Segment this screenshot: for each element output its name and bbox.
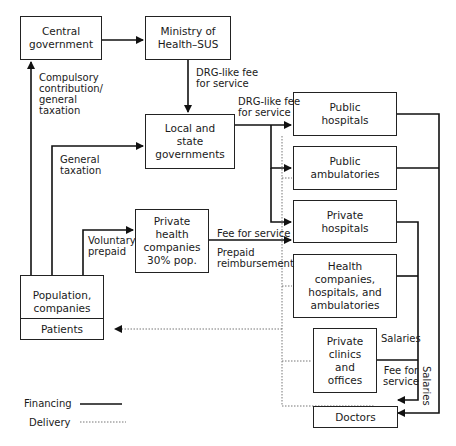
label-fee-for-service: Fee for service [217,228,290,239]
node-private-clinics: Private clinics and offices [313,328,377,393]
node-public-hospitals: Public hospitals [293,92,397,136]
legend-delivery: Delivery [29,417,71,428]
node-local-state-governments: Local and state governments [145,114,235,169]
legend-financing: Financing [24,398,72,409]
label-drg-fee-local: DRG-like fee for service [238,96,300,118]
node-private-hospitals: Private hospitals [293,200,397,243]
label-compulsory-contribution: Compulsory contribution/ general taxatio… [39,72,103,116]
node-public-ambulatories: Public ambulatories [293,146,397,190]
node-patients: Patients [20,318,104,340]
node-central-government: Central government [20,16,102,60]
label-salaries-outer: Salaries [421,366,432,406]
label-salaries-inner: Salaries [381,333,421,344]
label-drg-fee-ministry: DRG-like fee for service [196,67,258,89]
node-ministry-of-health: Ministry of Health–SUS [145,16,231,60]
node-doctors: Doctors [313,406,398,428]
node-private-health-companies: Private health companies 30% pop. [135,209,209,273]
label-general-taxation: General taxation [60,154,101,176]
label-prepaid-reimbursement: Prepaid reimbursement [217,247,294,269]
node-health-companies: Health companies, hospitals, and ambulat… [293,254,397,318]
label-voluntary-prepaid: Voluntary prepaid [88,235,136,257]
label-fee-for-service-doctors: Fee for service [383,365,419,387]
